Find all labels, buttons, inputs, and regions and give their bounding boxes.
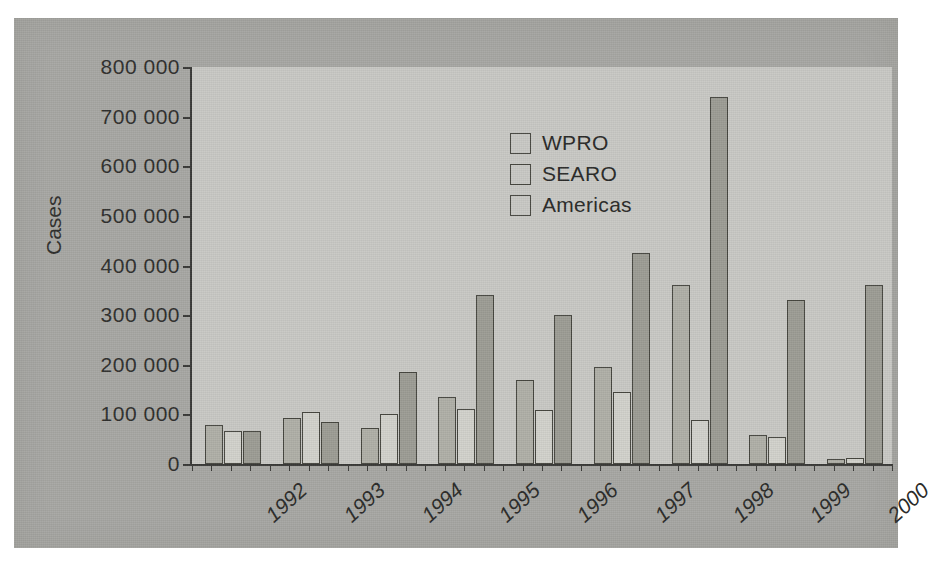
bar-wpro (283, 418, 301, 464)
y-axis-tick-label: 0 (168, 452, 180, 476)
bar-searo (380, 414, 398, 464)
x-axis-minor-tick (484, 464, 485, 471)
legend-swatch-searo (510, 164, 531, 185)
legend-swatch-americas (510, 195, 531, 216)
scanned-page-background: Cases 800 000700 000600 000500 000400 00… (14, 18, 898, 548)
x-axis-minor-tick (289, 464, 290, 471)
x-axis-minor-tick (211, 464, 212, 471)
legend-item-searo: SEARO (510, 162, 632, 186)
y-axis-tick-label: 600 000 (101, 154, 180, 178)
bar-americas (321, 422, 339, 464)
y-axis-tick (183, 216, 192, 218)
x-axis-minor-tick (775, 464, 776, 471)
bar-wpro (438, 397, 456, 464)
y-axis-tick-label: 400 000 (101, 253, 180, 277)
y-axis-tick-label: 300 000 (101, 303, 180, 327)
y-axis-tick (183, 117, 192, 119)
chart-legend: WPRO SEARO Americas (510, 131, 632, 217)
bar-americas (243, 431, 261, 464)
bar-americas (554, 315, 572, 464)
bar-wpro (672, 285, 690, 464)
y-axis-tick-label: 800 000 (101, 55, 180, 79)
legend-item-wpro: WPRO (510, 131, 632, 155)
x-axis-minor-tick (678, 464, 679, 471)
x-axis-minor-tick (600, 464, 601, 471)
y-axis-title: Cases (42, 195, 66, 255)
bar-wpro (205, 425, 223, 464)
bar-searo (535, 410, 553, 464)
bar-searo (613, 392, 631, 464)
x-axis-minor-tick (639, 464, 640, 471)
x-axis-minor-tick (834, 464, 835, 471)
bar-group (205, 67, 261, 464)
x-axis-tick-label: 1996 (572, 478, 623, 527)
x-axis-tick-label: 1997 (650, 478, 701, 527)
x-axis-minor-tick (503, 464, 504, 471)
x-axis-tick-label: 1999 (805, 478, 856, 527)
y-axis-tick-label: 700 000 (101, 104, 180, 128)
x-axis-tick-label: 1993 (339, 478, 390, 527)
bar-searo (224, 431, 242, 464)
y-axis-tick (183, 464, 192, 466)
x-axis-minor-tick (698, 464, 699, 471)
bar-searo (691, 420, 709, 464)
bar-group (594, 67, 650, 464)
x-axis-minor-tick (561, 464, 562, 471)
y-axis-tick (183, 414, 192, 416)
x-axis-minor-tick (620, 464, 621, 471)
bar-group (283, 67, 339, 464)
x-axis-tick-label: 1994 (417, 478, 468, 527)
bar-group (361, 67, 417, 464)
bar-wpro (516, 380, 534, 464)
x-axis-minor-tick (386, 464, 387, 471)
bar-searo (302, 412, 320, 464)
x-axis-minor-tick (464, 464, 465, 471)
y-axis-tick (183, 315, 192, 317)
bar-wpro (594, 367, 612, 464)
bar-americas (399, 372, 417, 464)
bar-americas (632, 253, 650, 464)
bar-group (438, 67, 494, 464)
x-axis-minor-tick (523, 464, 524, 471)
plot-area: 800 000700 000600 000500 000400 000300 0… (190, 67, 892, 466)
x-axis-minor-tick (445, 464, 446, 471)
x-axis-tick-label: 1992 (261, 478, 312, 527)
y-axis-tick (183, 67, 192, 69)
x-axis-minor-tick (367, 464, 368, 471)
legend-swatch-wpro (510, 133, 531, 154)
bar-group (749, 67, 805, 464)
x-axis-tick-label: 1998 (728, 478, 779, 527)
y-axis-tick-label: 100 000 (101, 402, 180, 426)
x-axis-minor-tick (270, 464, 271, 471)
x-axis-minor-tick (659, 464, 660, 471)
bar-group (672, 67, 728, 464)
x-axis-minor-tick (756, 464, 757, 471)
y-axis-tick-label: 500 000 (101, 203, 180, 227)
x-axis-minor-tick (795, 464, 796, 471)
legend-item-americas: Americas (510, 193, 632, 217)
legend-label-wpro: WPRO (542, 131, 609, 155)
x-axis-minor-tick (309, 464, 310, 471)
bar-wpro (827, 459, 845, 464)
x-axis-minor-tick (892, 464, 893, 471)
x-axis-minor-tick (231, 464, 232, 471)
bar-searo (768, 437, 786, 464)
bar-americas (476, 295, 494, 464)
x-axis-minor-tick (348, 464, 349, 471)
bar-group (827, 67, 883, 464)
bar-wpro (749, 435, 767, 464)
bar-americas (865, 285, 883, 464)
y-axis-tick (183, 166, 192, 168)
x-axis-minor-tick (425, 464, 426, 471)
x-axis-minor-tick (542, 464, 543, 471)
x-axis-tick-label: 2000 (883, 478, 932, 527)
bar-chart-figure: Cases 800 000700 000600 000500 000400 00… (14, 18, 898, 548)
x-axis-tick-label: 1995 (494, 478, 545, 527)
x-axis-minor-tick (736, 464, 737, 471)
y-axis-tick (183, 266, 192, 268)
legend-label-searo: SEARO (542, 162, 617, 186)
x-axis-minor-tick (717, 464, 718, 471)
x-axis-minor-tick (328, 464, 329, 471)
x-axis-minor-tick (406, 464, 407, 471)
bar-americas (787, 300, 805, 464)
